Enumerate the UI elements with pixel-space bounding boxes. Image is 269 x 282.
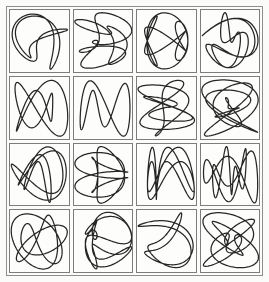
curve-cell: oval body with a sheaf of straight rays … (200, 209, 261, 273)
curve-cell: fan of long thin rays converging at a kn… (200, 76, 261, 140)
curve-cell: broad symmetric wing shape with a horizo… (200, 143, 261, 207)
curve-cell: bowtie X on the left joined to a rounded… (9, 76, 70, 140)
curve-plot: upright spindle with swept arrow arms an… (74, 210, 133, 272)
curve-plot: vertical oval crossed by a four-armed st… (137, 10, 196, 72)
curve-plot: cluster of round interlocking loops besi… (10, 210, 69, 272)
curve-plot: broad symmetric wing shape with a horizo… (201, 144, 260, 206)
figure-panel: narrow vertical lens overlaid with a til… (0, 0, 269, 282)
curve-cell: cluster of round interlocking loops besi… (9, 209, 70, 273)
parametric-curve (12, 14, 67, 69)
parametric-curve (11, 146, 66, 202)
curve-cell: upright spindle with swept arrow arms an… (73, 209, 134, 273)
parametric-curve (202, 213, 258, 268)
curve-cell: vertical oval crossed by a four-armed st… (136, 9, 197, 73)
curve-cell: tall slim leaf on the left with tangled … (9, 143, 70, 207)
curve-plot: narrow vertical lens overlaid with a til… (10, 10, 69, 72)
parametric-curve (138, 213, 193, 268)
curve-plot: rounded shell outline enclosing a small … (137, 144, 196, 206)
parametric-curve (74, 13, 131, 68)
curve-plot: butterfly of paired side lobes with a st… (74, 144, 133, 206)
curve-plot: vertical ellipse with long right-pointin… (201, 10, 260, 72)
curve-plot: three-bladed propeller radiating from a … (137, 210, 196, 272)
curve-cell: narrow vertical lens overlaid with a til… (9, 9, 70, 73)
curve-cell: tall vertical spindle with left-side loo… (73, 9, 134, 73)
parametric-curve (138, 80, 194, 136)
parametric-curve (85, 213, 131, 270)
curve-plot: tall vertical spindle with left-side loo… (74, 10, 133, 72)
curve-plot: bowtie X on the left joined to a rounded… (10, 77, 69, 139)
parametric-curve (201, 80, 257, 136)
curve-cell: vertical ellipse with long right-pointin… (200, 9, 261, 73)
curve-plot: fan of long thin rays converging at a kn… (201, 77, 260, 139)
parametric-curve (202, 13, 258, 68)
parametric-curve (147, 147, 194, 199)
curve-plot: large near-circle with a small crescent … (74, 77, 133, 139)
curve-cell: rounded shell outline enclosing a small … (136, 143, 197, 207)
curve-cell: butterfly of paired side lobes with a st… (73, 143, 134, 207)
parametric-curve (203, 146, 257, 202)
curve-cell: dense asterisk of rays with a triangular… (136, 76, 197, 140)
curve-cell: three-bladed propeller radiating from a … (136, 209, 197, 273)
parametric-curve (11, 214, 67, 269)
curve-cell-grid: narrow vertical lens overlaid with a til… (9, 9, 260, 273)
parametric-curve (80, 81, 130, 136)
curve-plot: dense asterisk of rays with a triangular… (137, 77, 196, 139)
curve-cell: large near-circle with a small crescent … (73, 76, 134, 140)
parametric-curve (74, 146, 127, 203)
parametric-curve (15, 80, 68, 136)
parametric-curve (145, 13, 188, 69)
curve-plot: tall slim leaf on the left with tangled … (10, 144, 69, 206)
curve-plot: oval body with a sheaf of straight rays … (201, 210, 260, 272)
